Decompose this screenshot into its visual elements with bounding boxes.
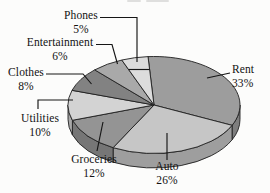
slice-percent: 8% bbox=[0, 80, 52, 94]
pie-3d-graphic bbox=[0, 0, 270, 193]
slice-name: Entertainment bbox=[14, 36, 106, 50]
slice-percent: 26% bbox=[147, 174, 187, 188]
pie-slices bbox=[68, 57, 240, 154]
slice-percent: 33% bbox=[232, 77, 270, 91]
slice-name: Auto bbox=[147, 160, 187, 174]
slice-label-phones: Phones 5% bbox=[56, 9, 106, 36]
slice-name: Groceries bbox=[64, 153, 124, 167]
slice-percent: 10% bbox=[10, 126, 70, 140]
slice-label-utilities: Utilities 10% bbox=[10, 112, 70, 139]
slice-label-rent: Rent 33% bbox=[232, 63, 270, 90]
slice-label-groceries: Groceries 12% bbox=[64, 153, 124, 180]
slice-name: Clothes bbox=[0, 66, 52, 80]
slice-percent: 5% bbox=[56, 23, 106, 37]
slice-name: Utilities bbox=[10, 112, 70, 126]
pie-chart-figure: Rent 33% Auto 26% Groceries 12% Utilitie… bbox=[0, 0, 270, 193]
slice-name: Rent bbox=[232, 63, 270, 77]
slice-label-entertainment: Entertainment 6% bbox=[14, 36, 106, 63]
slice-percent: 12% bbox=[64, 167, 124, 181]
slice-label-clothes: Clothes 8% bbox=[0, 66, 52, 93]
slice-name: Phones bbox=[56, 9, 106, 23]
slice-percent: 6% bbox=[14, 50, 106, 64]
slice-label-auto: Auto 26% bbox=[147, 160, 187, 187]
